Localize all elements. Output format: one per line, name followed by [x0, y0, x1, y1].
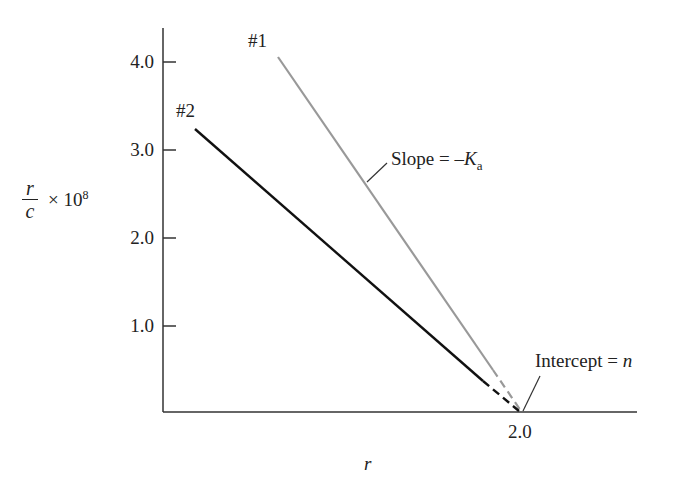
series-1-dashed — [493, 370, 521, 411]
ytick-label-3: 3.0 — [104, 139, 154, 161]
slope-leader — [367, 163, 387, 182]
x-axis-label: r — [364, 453, 371, 475]
xtick-label-2: 2.0 — [508, 421, 532, 443]
slope-annotation: Slope = –Ka — [391, 148, 482, 174]
ytick-label-4: 4.0 — [104, 51, 154, 73]
intercept-annotation: Intercept = n — [535, 350, 632, 372]
y-axis-label-numerator: r — [26, 178, 34, 198]
series-2-label: #2 — [176, 100, 195, 122]
intercept-variable: n — [623, 350, 633, 371]
y-axis-label-multiplier: × 108 — [48, 188, 88, 211]
y-axis-exponent: 8 — [82, 188, 88, 202]
y-axis-label-fraction: r c — [22, 178, 38, 221]
series-2-dashed — [483, 381, 519, 411]
slope-prefix: Slope = – — [391, 148, 464, 169]
series-1-label: #1 — [248, 30, 267, 52]
y-axis-times-ten: × 10 — [48, 189, 82, 210]
ytick-label-1: 1.0 — [104, 315, 154, 337]
plot-canvas — [0, 0, 684, 482]
slope-subscript: a — [477, 158, 483, 173]
y-axis-label-denominator: c — [26, 201, 35, 221]
intercept-leader — [523, 376, 540, 411]
slope-variable: K — [464, 148, 477, 169]
series-1-line — [278, 57, 493, 370]
intercept-prefix: Intercept = — [535, 350, 623, 371]
ytick-label-2: 2.0 — [104, 227, 154, 249]
